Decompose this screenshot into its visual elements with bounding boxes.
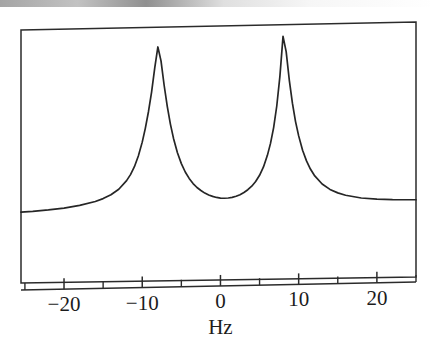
x-axis-tick-labels: −20−1001020	[48, 286, 388, 316]
x-axis-title: Hz	[208, 315, 233, 339]
spectrum-chart: −20−1001020 Hz	[0, 0, 430, 357]
nmr-spectrum-figure: −20−1001020 Hz	[0, 0, 430, 357]
tick-label: 0	[215, 289, 226, 313]
x-axis-ticks	[25, 272, 416, 290]
plot-frame	[21, 22, 416, 283]
spectrum-curve	[21, 36, 416, 212]
tick-label: −10	[126, 291, 159, 315]
tick-label: 20	[366, 286, 387, 310]
tick-label: 10	[288, 287, 309, 311]
tick-label: −20	[48, 292, 81, 316]
